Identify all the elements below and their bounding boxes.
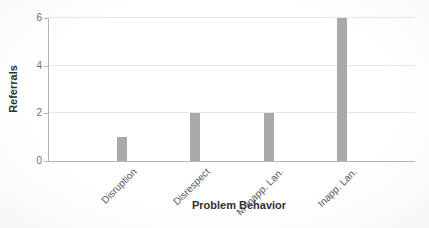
bar-disruption — [117, 137, 127, 161]
bar-inapp-lan — [337, 18, 347, 161]
gridline-y6 — [49, 17, 415, 18]
referrals-bar-chart: Referrals Problem Behavior 0246Disruptio… — [0, 0, 429, 228]
y-tick-label-6: 6 — [24, 12, 42, 24]
y-tick-mark-2 — [44, 113, 48, 114]
y-axis-title: Referrals — [7, 65, 19, 113]
y-tick-mark-6 — [44, 18, 48, 19]
plot-area — [48, 18, 415, 162]
gridline-y2 — [49, 112, 415, 113]
y-tick-mark-0 — [44, 161, 48, 162]
y-tick-mark-4 — [44, 66, 48, 67]
y-tick-label-0: 0 — [24, 155, 42, 167]
y-tick-label-2: 2 — [24, 107, 42, 119]
bar-disrespect — [190, 113, 200, 161]
gridline-y4 — [49, 65, 415, 66]
y-tick-label-4: 4 — [24, 60, 42, 72]
bar-m-inapp-lan — [264, 113, 274, 161]
